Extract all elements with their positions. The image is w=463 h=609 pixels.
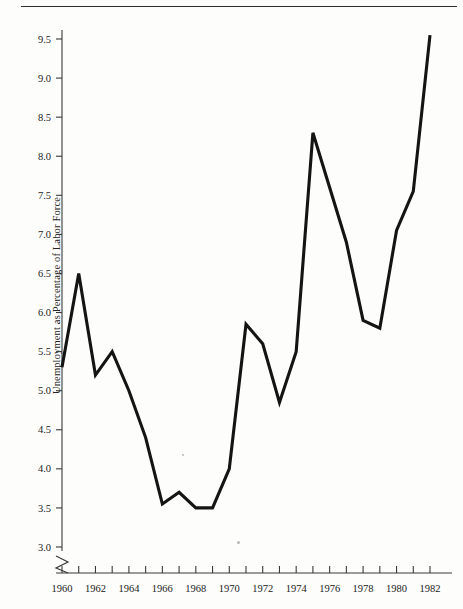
x-tick-label: 1962: [85, 583, 106, 594]
y-tick-label: 3.5: [38, 503, 51, 514]
y-tick-label: 9.5: [38, 34, 51, 45]
y-tick-label: 8.0: [38, 151, 51, 162]
y-tick-labels: 3.03.54.04.55.05.56.06.57.07.58.08.59.09…: [38, 34, 51, 553]
x-tick-label: 1966: [152, 583, 173, 594]
x-tick-label: 1970: [219, 583, 240, 594]
x-tick-label: 1972: [252, 583, 273, 594]
x-tick-label: 1964: [118, 583, 140, 594]
x-tick-label: 1982: [420, 583, 441, 594]
x-tick-label: 1974: [286, 583, 308, 594]
y-tick-marks: [56, 39, 62, 547]
y-tick-label: 4.5: [38, 424, 51, 435]
y-tick-label: 7.0: [38, 229, 51, 240]
data-series-unemployment: [62, 35, 430, 508]
y-tick-label: 5.0: [38, 385, 51, 396]
x-tick-label: 1976: [319, 583, 340, 594]
y-tick-label: 8.5: [38, 112, 51, 123]
y-tick-label: 7.5: [38, 190, 51, 201]
figure-page: Unemployment as Percentage of Labor Forc…: [0, 0, 463, 609]
line-chart: 3.03.54.04.55.05.56.06.57.07.58.08.59.09…: [0, 0, 463, 609]
x-tick-marks: [62, 566, 430, 573]
x-tick-label: 1980: [386, 583, 407, 594]
y-tick-label: 9.0: [38, 73, 51, 84]
x-tick-label: 1968: [185, 583, 206, 594]
y-tick-label: 6.0: [38, 307, 51, 318]
x-tick-labels: 1960196219641966196819701972197419761978…: [52, 583, 441, 594]
unemployment-line: [62, 35, 430, 508]
y-tick-label: 6.5: [38, 268, 51, 279]
y-tick-label: 5.5: [38, 346, 51, 357]
x-tick-label: 1978: [353, 583, 374, 594]
y-tick-label: 3.0: [38, 542, 51, 553]
y-tick-label: 4.0: [38, 463, 51, 474]
x-tick-label: 1960: [52, 583, 73, 594]
